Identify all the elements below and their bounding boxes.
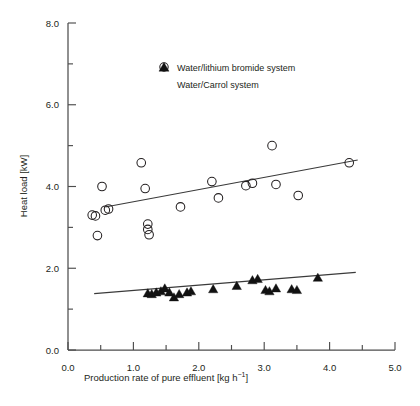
x-tick-label: 3.0 bbox=[258, 362, 271, 373]
data-point-circle bbox=[176, 203, 185, 212]
data-point-circle bbox=[141, 184, 150, 193]
x-axis-title: Production rate of pure effluent [kg h−1… bbox=[84, 371, 248, 383]
y-tick-label: 6.0 bbox=[46, 99, 59, 110]
data-point-circle bbox=[294, 191, 303, 200]
data-point-circle bbox=[268, 141, 277, 150]
y-tick-label: 4.0 bbox=[46, 181, 59, 192]
legend: Water/lithium bromide system Water/Carro… bbox=[159, 63, 295, 90]
data-point-triangle bbox=[208, 285, 217, 293]
data-point-triangle bbox=[313, 273, 322, 281]
y-tick-label: 8.0 bbox=[46, 18, 59, 29]
x-axis-title-main: Production rate of pure effluent [kg h bbox=[84, 372, 238, 383]
data-point-circle bbox=[137, 158, 146, 167]
data-point-triangle bbox=[271, 284, 280, 292]
y-tick-label: 2.0 bbox=[46, 263, 59, 274]
x-tick-label: 5.0 bbox=[388, 362, 401, 373]
data-point-circle bbox=[214, 194, 223, 203]
data-point-circle bbox=[143, 225, 152, 234]
data-point-circle bbox=[208, 177, 217, 186]
data-point-circle bbox=[145, 230, 154, 239]
x-tick-label: 0.0 bbox=[61, 362, 74, 373]
data-points bbox=[88, 141, 354, 301]
scatter-plot-svg: 0.01.02.03.04.05.00.02.04.06.08.0 Water/… bbox=[0, 0, 420, 406]
data-point-circle bbox=[345, 158, 354, 167]
y-axis-title: Heat load [kW] bbox=[18, 155, 29, 217]
legend-label-0: Water/lithium bromide system bbox=[177, 63, 295, 73]
x-axis-title-end: ] bbox=[246, 372, 249, 383]
chart-figure: 0.01.02.03.04.05.00.02.04.06.08.0 Water/… bbox=[0, 0, 420, 406]
data-point-triangle bbox=[174, 289, 183, 297]
data-point-circle bbox=[272, 180, 281, 189]
svg-text:Production rate of pure efflue: Production rate of pure effluent [kg h−1… bbox=[84, 371, 248, 383]
y-tick-label: 0.0 bbox=[46, 345, 59, 356]
legend-label-1: Water/Carrol system bbox=[177, 80, 259, 90]
data-point-circle bbox=[98, 182, 107, 191]
data-point-circle bbox=[93, 231, 102, 240]
x-axis-title-superscript: −1 bbox=[238, 371, 246, 378]
x-tick-label: 4.0 bbox=[323, 362, 336, 373]
data-point-triangle bbox=[253, 274, 262, 282]
